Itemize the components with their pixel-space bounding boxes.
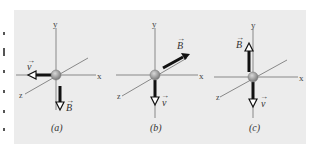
particle-icon xyxy=(51,70,61,80)
svg-text:→: → xyxy=(161,91,169,100)
svg-text:x: x xyxy=(199,71,204,81)
svg-text:z: z xyxy=(117,92,121,101)
velocity-arrow-icon xyxy=(249,99,257,107)
svg-text:→: → xyxy=(66,96,74,105)
z-axis-label: z xyxy=(19,91,23,100)
x-axis-label: x xyxy=(97,71,102,81)
particle-icon xyxy=(150,70,160,80)
svg-text:→: → xyxy=(260,92,268,101)
figure-diagram: y x z v → B → (a) y x z B → v → (b) xyxy=(0,0,321,150)
particle-icon xyxy=(248,72,258,82)
svg-text:y: y xyxy=(152,19,157,29)
field-arrow-icon xyxy=(56,102,64,110)
panel-b: y x z B → v → (b) xyxy=(116,19,204,134)
y-axis-label: y xyxy=(53,19,58,29)
caption-a: (a) xyxy=(51,122,63,134)
caption-b: (b) xyxy=(150,122,162,134)
svg-text:x: x xyxy=(299,73,304,83)
panel-a: y x z v → B → (a) xyxy=(16,19,102,134)
svg-text:→: → xyxy=(177,34,185,43)
caption-c: (c) xyxy=(249,122,261,134)
field-arrow-icon xyxy=(245,43,253,51)
svg-text:→: → xyxy=(27,56,35,65)
panel-c: y x z B → v → (c) xyxy=(214,20,304,134)
svg-text:z: z xyxy=(216,93,220,102)
svg-text:→: → xyxy=(236,33,244,42)
velocity-arrow-icon xyxy=(28,71,36,79)
svg-text:y: y xyxy=(251,20,256,30)
velocity-arrow-icon xyxy=(151,97,159,105)
